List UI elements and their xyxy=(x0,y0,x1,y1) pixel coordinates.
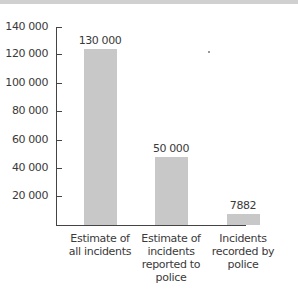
y-tick-label: 20 000 xyxy=(0,190,48,202)
y-tick xyxy=(56,111,62,112)
y-tick xyxy=(56,140,62,141)
y-tick-label: 100 000 xyxy=(0,77,48,89)
category-label-line: Estimate of xyxy=(60,232,140,245)
category-label-line: all incidents xyxy=(60,245,140,258)
y-tick xyxy=(56,83,62,84)
category-label-line: police xyxy=(203,258,283,271)
stray-mark xyxy=(208,51,210,53)
y-tick-label: 80 000 xyxy=(0,105,48,117)
x-axis xyxy=(56,225,246,226)
bar-value-label: 7882 xyxy=(208,199,278,212)
category-label-all-incidents: Estimate of all incidents xyxy=(60,232,140,258)
y-tick-label: 60 000 xyxy=(0,134,48,146)
bar-reported-to-police xyxy=(155,157,188,225)
y-axis-top-tick xyxy=(56,27,62,28)
category-label-reported: Estimate of incidents reported to police xyxy=(131,232,211,284)
bar-all-incidents xyxy=(84,49,117,225)
y-tick-label: 40 000 xyxy=(0,162,48,174)
bar-value-label: 130 000 xyxy=(65,34,135,47)
category-label-line: recorded by xyxy=(203,245,283,258)
y-tick xyxy=(56,168,62,169)
y-tick-label: 120 000 xyxy=(0,48,48,60)
category-label-line: reported to xyxy=(131,258,211,271)
bar-chart: 140 000 120 000 100 000 80 000 60 000 40… xyxy=(0,0,298,294)
category-label-line: Incidents xyxy=(203,232,283,245)
bar-recorded-by-police xyxy=(227,214,260,225)
bar-value-label: 50 000 xyxy=(136,142,206,155)
y-tick-label: 140 000 xyxy=(0,21,48,33)
category-label-recorded: Incidents recorded by police xyxy=(203,232,283,271)
y-tick xyxy=(56,54,62,55)
category-label-line: incidents xyxy=(131,245,211,258)
category-label-line: police xyxy=(131,271,211,284)
category-label-line: Estimate of xyxy=(131,232,211,245)
y-tick xyxy=(56,196,62,197)
